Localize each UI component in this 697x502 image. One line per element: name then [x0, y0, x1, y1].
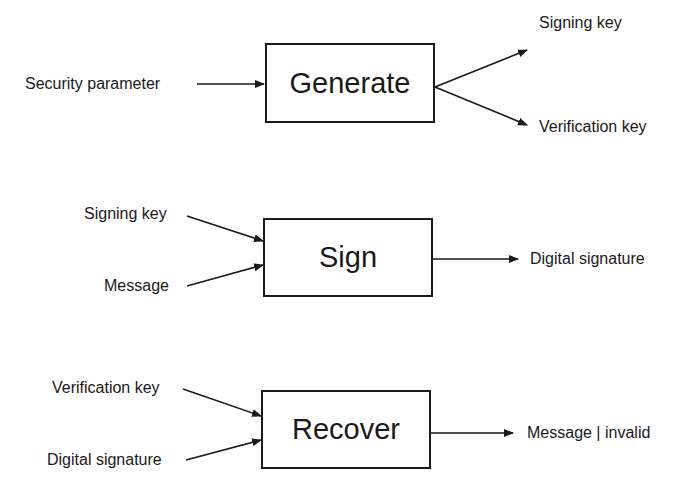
sign-block: Sign: [263, 218, 433, 297]
sign-title: Sign: [319, 241, 377, 274]
generate-block: Generate: [265, 43, 435, 123]
verification-key-input-label: Verification key: [52, 379, 160, 397]
signing-key-input-label: Signing key: [84, 205, 167, 223]
signing-key-output-label: Signing key: [539, 14, 622, 32]
digital-signature-output-label: Digital signature: [530, 250, 645, 268]
recover-title: Recover: [292, 413, 400, 446]
security-parameter-label: Security parameter: [25, 75, 160, 93]
message-invalid-output-label: Message | invalid: [527, 424, 650, 442]
digital-signature-input-label: Digital signature: [47, 451, 162, 469]
verification-key-output-label: Verification key: [539, 118, 647, 136]
recover-block: Recover: [261, 390, 431, 469]
message-input-label: Message: [104, 277, 169, 295]
generate-title: Generate: [290, 67, 411, 100]
